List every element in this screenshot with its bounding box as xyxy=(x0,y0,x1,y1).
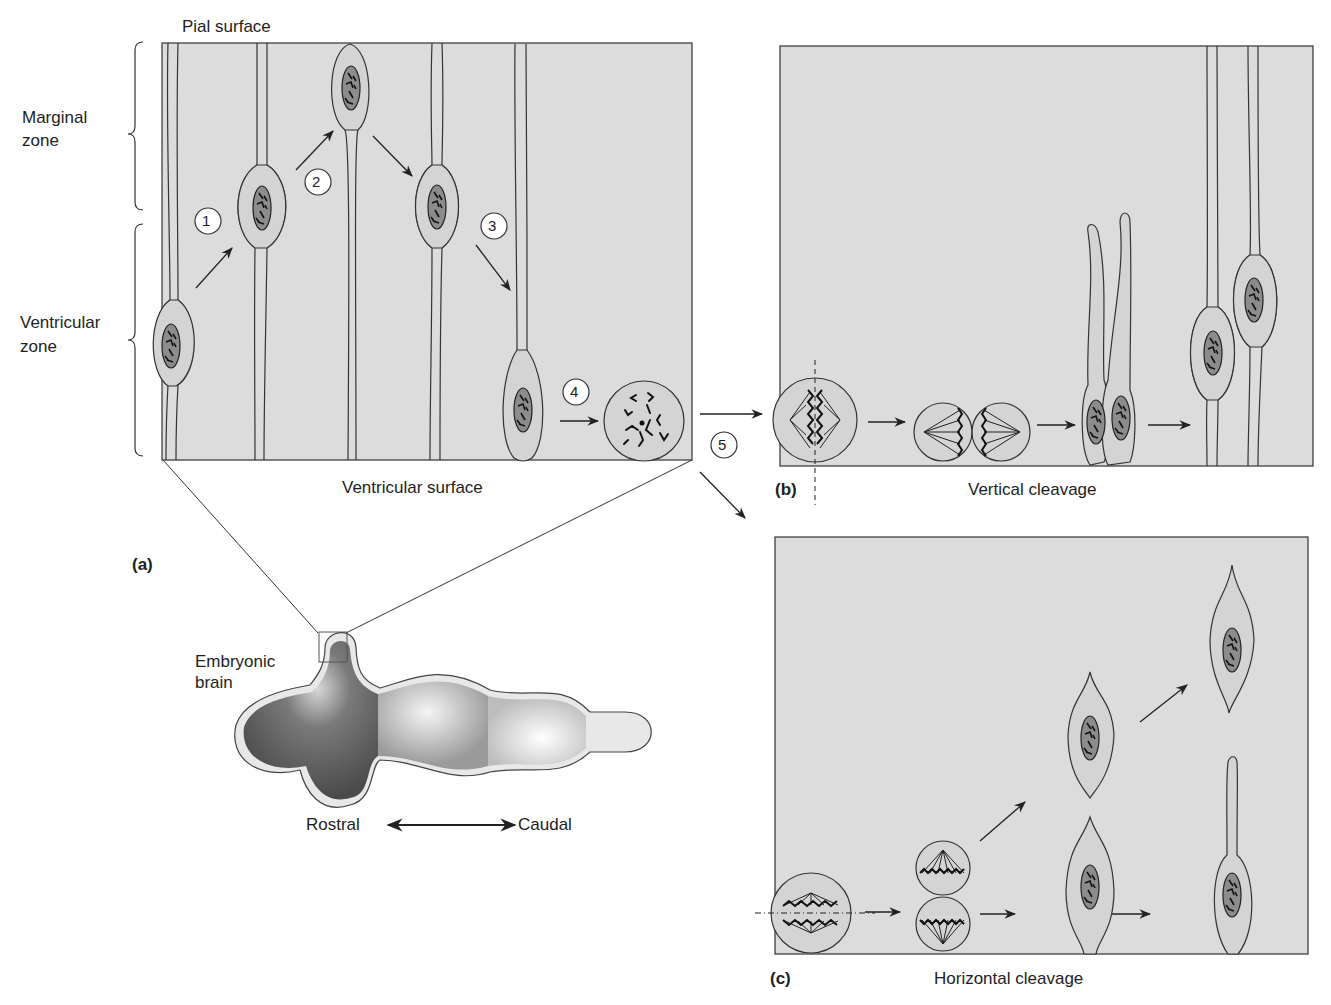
step-3-number: 3 xyxy=(488,216,496,236)
panel-c-letter: (c) xyxy=(770,969,791,989)
panel-a-letter: (a) xyxy=(132,555,153,575)
prophase-cell xyxy=(604,381,684,461)
pial-surface-label: Pial surface xyxy=(182,17,271,37)
embryonic-brain-illustration xyxy=(235,632,651,825)
marginal-zone-bracket xyxy=(128,42,143,210)
panel-b-vertical-cleavage xyxy=(773,46,1313,505)
ventricular-zone-bracket xyxy=(128,224,143,456)
caudal-label: Caudal xyxy=(518,815,572,835)
ventricular-zone-label-line2: zone xyxy=(20,337,57,357)
panel-c-horizontal-cleavage xyxy=(755,537,1308,954)
diagram-artwork xyxy=(0,0,1331,1005)
panel-a-ventricular-section xyxy=(128,42,762,633)
embryonic-brain-label-line2: brain xyxy=(195,673,233,693)
step-2-number: 2 xyxy=(312,172,320,192)
step-5-marker xyxy=(700,414,762,518)
step-5-number: 5 xyxy=(718,435,726,455)
horizontal-cleavage-caption: Horizontal cleavage xyxy=(934,969,1083,989)
rostral-label: Rostral xyxy=(306,815,360,835)
ventricular-surface-label: Ventricular surface xyxy=(342,478,483,498)
step-4-number: 4 xyxy=(570,382,578,402)
embryonic-brain-label-line1: Embryonic xyxy=(195,652,275,672)
vertical-cleavage-caption: Vertical cleavage xyxy=(968,480,1097,500)
marginal-zone-label-line2: zone xyxy=(22,131,59,151)
step-1-number: 1 xyxy=(202,211,210,231)
ventricular-zone-label-line1: Ventricular xyxy=(20,313,100,333)
marginal-zone-label-line1: Marginal xyxy=(22,108,87,128)
panel-b-letter: (b) xyxy=(775,480,797,500)
